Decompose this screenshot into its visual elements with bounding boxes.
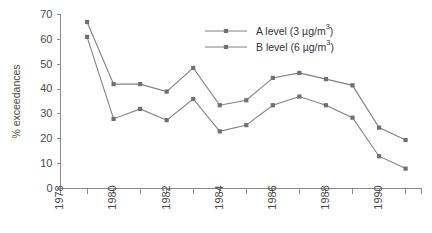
y-axis-tick-label: 20 bbox=[40, 132, 52, 144]
data-point-marker bbox=[165, 89, 169, 93]
x-axis-tick-label: 1986 bbox=[266, 185, 278, 209]
data-point-marker bbox=[165, 118, 169, 122]
data-point-marker bbox=[324, 103, 328, 107]
y-axis-tick-label: 40 bbox=[40, 82, 52, 94]
legend-label: B level (6 µg/m3) bbox=[256, 38, 334, 52]
legend-item-a: A level (3 µg/m3) bbox=[205, 22, 333, 36]
y-axis-tick-label: 0 bbox=[46, 182, 52, 194]
data-point-marker bbox=[191, 66, 195, 70]
y-axis-tick-label: 60 bbox=[40, 33, 52, 45]
x-axis-tick-label: 1990 bbox=[372, 185, 384, 209]
series-line-b bbox=[87, 37, 406, 169]
legend-swatch-marker bbox=[224, 45, 228, 49]
x-axis-tick-label: 1980 bbox=[106, 185, 118, 209]
data-point-marker bbox=[191, 97, 195, 101]
data-point-marker bbox=[85, 35, 89, 39]
data-point-marker bbox=[377, 126, 381, 130]
y-axis-tick-label: 50 bbox=[40, 58, 52, 70]
data-point-marker bbox=[403, 138, 407, 142]
y-axis-tick-label: 30 bbox=[40, 107, 52, 119]
data-point-marker bbox=[218, 129, 222, 133]
exceedances-line-chart: 0102030405060701978198019821984198619881… bbox=[0, 0, 432, 233]
data-point-marker bbox=[297, 94, 301, 98]
y-axis-title: % exceedances bbox=[10, 64, 22, 138]
data-point-marker bbox=[297, 71, 301, 75]
chart-container: 0102030405060701978198019821984198619881… bbox=[0, 0, 432, 233]
data-point-marker bbox=[350, 116, 354, 120]
legend-label: A level (3 µg/m3) bbox=[256, 22, 333, 36]
legend-item-b: B level (6 µg/m3) bbox=[205, 38, 334, 52]
legend-swatch-marker bbox=[224, 29, 228, 33]
data-point-marker bbox=[271, 103, 275, 107]
data-point-marker bbox=[350, 83, 354, 87]
x-axis-tick-label: 1988 bbox=[319, 185, 331, 209]
y-axis-tick-label: 10 bbox=[40, 157, 52, 169]
data-point-marker bbox=[244, 123, 248, 127]
x-axis-tick-label: 1978 bbox=[53, 185, 65, 209]
data-point-marker bbox=[138, 82, 142, 86]
y-axis-tick-label: 70 bbox=[40, 8, 52, 20]
data-point-marker bbox=[244, 98, 248, 102]
data-point-marker bbox=[218, 103, 222, 107]
series-line-a bbox=[87, 22, 406, 140]
x-axis-tick-label: 1982 bbox=[160, 185, 172, 209]
data-point-marker bbox=[324, 77, 328, 81]
data-point-marker bbox=[111, 117, 115, 121]
x-axis-tick-label: 1984 bbox=[213, 185, 225, 209]
data-point-marker bbox=[377, 154, 381, 158]
data-point-marker bbox=[111, 82, 115, 86]
data-point-marker bbox=[85, 20, 89, 24]
data-point-marker bbox=[138, 107, 142, 111]
data-point-marker bbox=[403, 167, 407, 171]
data-point-marker bbox=[271, 76, 275, 80]
